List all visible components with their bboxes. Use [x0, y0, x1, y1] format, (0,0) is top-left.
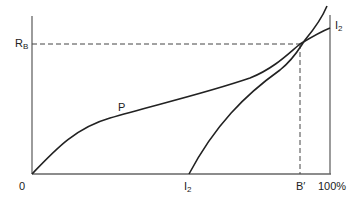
- i2-top-label: I2: [335, 20, 343, 33]
- rb-label: RB: [15, 38, 28, 51]
- b-prime-label: B′: [296, 181, 305, 192]
- i2-bottom-label: I2: [184, 181, 192, 194]
- origin-label: 0: [19, 181, 25, 192]
- curve-p: [32, 28, 330, 174]
- hundred-percent-label: 100%: [318, 181, 346, 192]
- curve-p-label: P: [118, 102, 125, 113]
- diagram-canvas: [0, 0, 361, 201]
